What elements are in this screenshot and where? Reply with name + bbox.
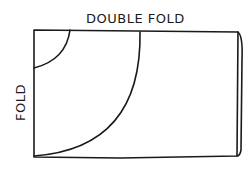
small-quarter-circle bbox=[34, 30, 70, 68]
double-fold-label: DOUBLE FOLD bbox=[86, 11, 185, 26]
paper-rectangle bbox=[34, 30, 238, 158]
fold-label: FOLD bbox=[13, 84, 28, 121]
large-quarter-circle bbox=[34, 32, 140, 156]
fold-diagram: DOUBLE FOLD FOLD bbox=[0, 0, 252, 171]
